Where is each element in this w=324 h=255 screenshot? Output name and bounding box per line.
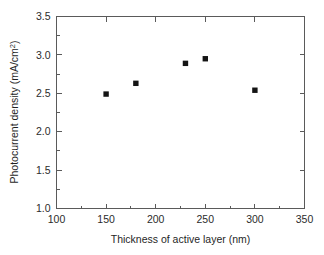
data-point: 250, 2.95 <box>203 56 208 61</box>
y-tick-label: 1.5 <box>36 164 51 176</box>
x-tick-label: 250 <box>197 213 215 225</box>
data-point: 150, 2.49 <box>103 91 108 96</box>
y-axis-title-base: Photocurrent density (mA/cm <box>8 48 20 184</box>
x-axis-tick-labels: 100150200250300350 <box>48 213 314 225</box>
y-axis-title-tail: ) <box>8 40 20 44</box>
y-axis-tick-labels: 1.01.52.02.53.03.5 <box>36 10 51 214</box>
y-tick-label: 2.5 <box>36 87 51 99</box>
x-axis-title: Thickness of active layer (nm) <box>111 233 250 245</box>
x-tick-label: 200 <box>147 213 165 225</box>
plot-frame <box>57 17 305 209</box>
y-tick-label: 3.0 <box>36 49 51 61</box>
x-tick-label: 150 <box>97 213 115 225</box>
data-point: 230, 2.89 <box>183 61 188 66</box>
data-point-markers: 150, 2.49180, 2.63230, 2.89250, 2.95300,… <box>103 56 257 97</box>
scatter-plot: 1.01.52.02.53.03.5 100150200250300350 15… <box>0 0 324 255</box>
y-axis-title: Photocurrent density (mA/cm2) <box>8 40 21 183</box>
x-tick-label: 100 <box>48 213 66 225</box>
x-tick-label: 300 <box>246 213 264 225</box>
y-tick-label: 2.0 <box>36 125 51 137</box>
data-point: 180, 2.63 <box>133 81 138 86</box>
y-tick-label: 3.5 <box>36 10 51 22</box>
data-point: 300, 2.54 <box>252 88 257 93</box>
x-tick-label: 350 <box>296 213 314 225</box>
x-axis-major-ticks <box>57 17 305 209</box>
chart-figure: 1.01.52.02.53.03.5 100150200250300350 15… <box>0 0 324 255</box>
y-axis-major-ticks <box>57 17 305 209</box>
